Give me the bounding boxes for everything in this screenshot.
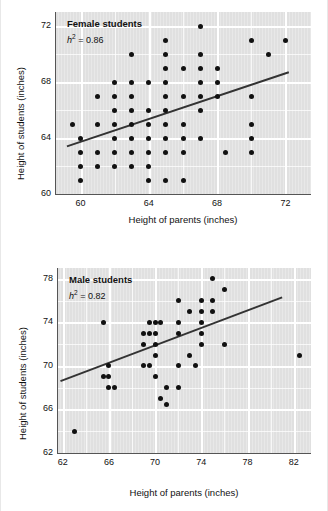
data-point	[199, 342, 204, 347]
data-point	[199, 309, 204, 314]
data-point	[141, 331, 146, 336]
x-tick-label: 62	[51, 457, 75, 467]
data-point	[153, 374, 158, 379]
x-axis-line	[57, 453, 311, 454]
x-axis-label-male: Height of parents (inches)	[57, 487, 311, 498]
data-point	[141, 342, 146, 347]
data-point	[297, 353, 302, 358]
data-point	[199, 320, 204, 325]
x-tick-label: 70	[143, 457, 167, 467]
data-point	[147, 320, 152, 325]
data-point	[199, 298, 204, 303]
chart-annotation-male: h2 = 0.82	[69, 289, 105, 301]
y-tick-label: 62	[31, 447, 53, 457]
y-axis-line	[57, 268, 58, 453]
x-tick-label: 82	[282, 457, 306, 467]
data-point	[147, 331, 152, 336]
data-point	[153, 353, 158, 358]
y-tick-label: 70	[31, 360, 53, 370]
data-point	[176, 298, 181, 303]
data-point	[153, 342, 158, 347]
x-tick-label: 66	[97, 457, 121, 467]
data-point	[164, 402, 169, 407]
data-point	[72, 429, 77, 434]
y-tick-label: 78	[31, 273, 53, 283]
chart-male: Male students h2 = 0.82 Height of parent…	[1, 0, 328, 256]
x-tick-label: 78	[236, 457, 260, 467]
data-point	[187, 353, 192, 358]
figure-page: Female students h2 = 0.86 Height of pare…	[0, 0, 328, 511]
y-tick-label: 74	[31, 316, 53, 326]
data-point	[199, 331, 204, 336]
data-point	[153, 331, 158, 336]
heritability-value: = 0.82	[78, 291, 106, 301]
data-point	[176, 320, 181, 325]
chart-title-male: Male students	[69, 274, 132, 285]
data-point	[101, 320, 106, 325]
data-point	[222, 342, 227, 347]
data-point	[176, 331, 181, 336]
y-axis-label-male: Height of students (inches)	[17, 327, 28, 440]
data-point	[153, 320, 158, 325]
y-tick-label: 66	[31, 403, 53, 413]
chart-panel-male: Male students h2 = 0.82 Height of parent…	[1, 255, 328, 511]
x-tick-label: 74	[189, 457, 213, 467]
data-point	[176, 385, 181, 390]
